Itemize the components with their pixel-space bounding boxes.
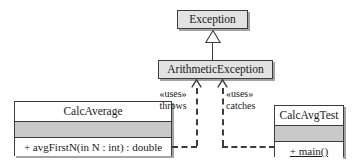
catches-arrowhead-icon	[217, 79, 228, 88]
throws-label: throws	[152, 100, 194, 112]
class-box-exception[interactable]: Exception	[177, 10, 248, 29]
generalization-line	[212, 42, 213, 61]
operation-main: + main()	[290, 145, 328, 157]
class-name-arithmetic-exception: ArithmeticException	[159, 61, 272, 78]
attributes-compartment-calc-avg-test	[275, 126, 343, 142]
class-name-exception: Exception	[178, 11, 247, 28]
generalization-triangle-icon	[205, 30, 221, 43]
uml-class-diagram: Exception ArithmeticException CalcAverag…	[0, 0, 352, 165]
throws-stereotype: «uses»	[152, 88, 194, 100]
throws-dependency-label: «uses» throws	[152, 88, 194, 111]
throws-dependency-horizontal	[172, 146, 197, 148]
catches-dependency-vertical	[222, 88, 224, 146]
catches-dependency-horizontal	[222, 146, 275, 148]
operations-compartment-calc-average: + avgFirstN(in N : int) : double	[15, 138, 171, 156]
class-box-calc-avg-test[interactable]: CalcAvgTest + main()	[274, 105, 344, 157]
catches-dependency-label: «uses» catches	[226, 88, 274, 111]
class-box-calc-average[interactable]: CalcAverage + avgFirstN(in N : int) : do…	[14, 101, 172, 156]
class-box-arithmetic-exception[interactable]: ArithmeticException	[158, 60, 273, 79]
operations-compartment-calc-avg-test: + main()	[275, 142, 343, 160]
throws-dependency-vertical	[196, 88, 198, 146]
catches-stereotype: «uses»	[226, 88, 274, 100]
throws-arrowhead-icon	[191, 79, 202, 88]
attributes-compartment-calc-average	[15, 122, 171, 138]
operation-avg-first-n: + avgFirstN(in N : int) : double	[24, 141, 162, 153]
class-name-calc-average: CalcAverage	[15, 102, 171, 122]
catches-label: catches	[226, 100, 274, 112]
class-name-calc-avg-test: CalcAvgTest	[275, 106, 343, 126]
